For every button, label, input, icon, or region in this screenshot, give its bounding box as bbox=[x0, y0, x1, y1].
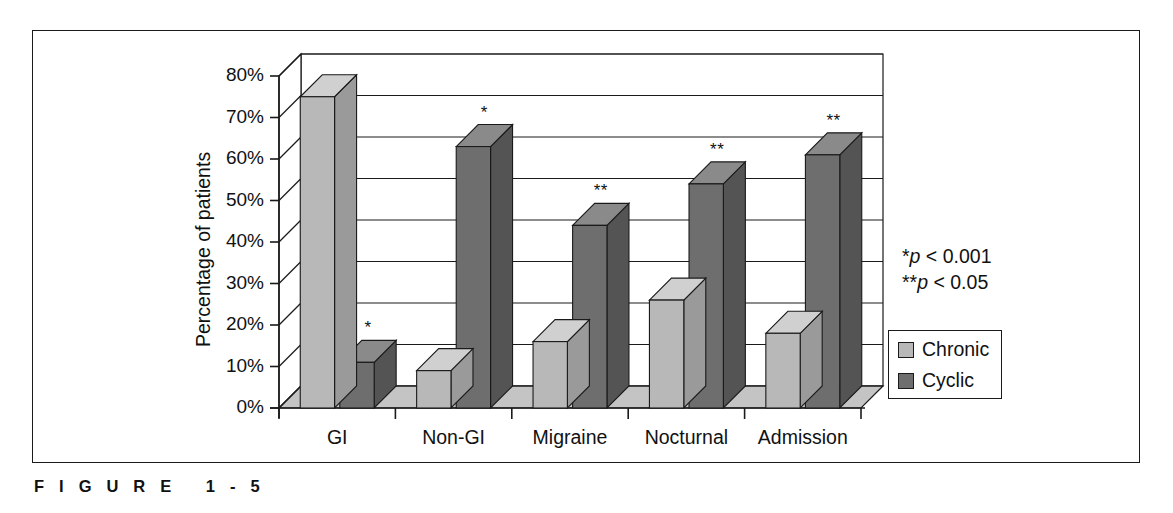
legend-item-cyclic[interactable]: Cyclic bbox=[898, 369, 974, 392]
legend-swatch-cyclic-icon bbox=[898, 373, 914, 389]
significance-marker: * bbox=[338, 319, 398, 336]
p-value-note: *p < 0.001 bbox=[902, 244, 991, 270]
p-value-note-threshold: < 0.05 bbox=[928, 271, 988, 293]
y-axis-tick-label: 0% bbox=[237, 396, 264, 418]
y-axis-tick-label: 40% bbox=[226, 230, 264, 252]
y-axis-tick-label: 30% bbox=[226, 272, 264, 294]
x-axis-category-label: Admission bbox=[723, 426, 883, 449]
y-axis-tick-label: 70% bbox=[226, 106, 264, 128]
significance-marker: ** bbox=[687, 141, 747, 158]
y-axis-tick-label: 80% bbox=[226, 64, 264, 86]
p-value-note: **p < 0.05 bbox=[902, 270, 991, 296]
legend-label-chronic: Chronic bbox=[922, 338, 989, 361]
legend-swatch-chronic-icon bbox=[898, 342, 914, 358]
p-value-note-marker: ** bbox=[902, 271, 917, 293]
y-axis-tick-label: 50% bbox=[226, 189, 264, 211]
p-value-note-marker: * bbox=[902, 245, 910, 267]
significance-marker: * bbox=[454, 104, 514, 121]
y-axis-tick-label: 60% bbox=[226, 147, 264, 169]
y-axis-tick-label: 20% bbox=[226, 313, 264, 335]
y-axis-tick-label: 10% bbox=[226, 355, 264, 377]
significance-marker: ** bbox=[804, 112, 864, 129]
significance-marker: ** bbox=[571, 182, 631, 199]
legend-label-cyclic: Cyclic bbox=[922, 369, 974, 392]
legend-item-chronic[interactable]: Chronic bbox=[898, 338, 989, 361]
p-value-note-symbol: p bbox=[917, 271, 928, 293]
p-value-notes: *p < 0.001**p < 0.05 bbox=[902, 244, 991, 296]
figure-caption: F I G U R E 1 - 5 bbox=[34, 477, 265, 496]
chart-legend: Chronic Cyclic bbox=[888, 330, 1002, 399]
y-axis-title: Percentage of patients bbox=[192, 152, 215, 347]
p-value-note-threshold: < 0.001 bbox=[920, 245, 991, 267]
p-value-note-symbol: p bbox=[910, 245, 921, 267]
